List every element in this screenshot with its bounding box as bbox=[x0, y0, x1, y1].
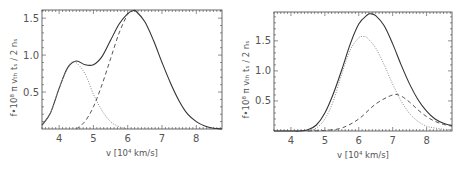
plot-frame bbox=[274, 12, 452, 131]
right-plot-canvas: 456780.51.01.5v [10⁴ km/s]f•10⁸ π vₜₕ tₛ… bbox=[0, 0, 466, 169]
y-axis-label: f•10⁸ π vₜₕ tₛ / 2 nₛ bbox=[241, 41, 251, 119]
x-tick-label: 6 bbox=[356, 135, 362, 146]
y-tick-label: 1.5 bbox=[255, 35, 271, 46]
y-tick-label: 1.0 bbox=[255, 65, 271, 76]
y-tick-label: 0.5 bbox=[255, 95, 271, 106]
x-tick-label: 4 bbox=[288, 135, 294, 146]
dashed-curve bbox=[308, 94, 452, 131]
solid-curve bbox=[274, 14, 452, 131]
axis-ticks bbox=[274, 12, 452, 131]
x-tick-label: 8 bbox=[423, 135, 429, 146]
x-axis-label: v [10⁴ km/s] bbox=[337, 150, 389, 160]
right-plot-panel: 456780.51.01.5v [10⁴ km/s]f•10⁸ π vₜₕ tₛ… bbox=[0, 0, 233, 169]
x-tick-label: 5 bbox=[322, 135, 328, 146]
dotted-curve bbox=[308, 36, 452, 131]
x-tick-label: 7 bbox=[389, 135, 395, 146]
